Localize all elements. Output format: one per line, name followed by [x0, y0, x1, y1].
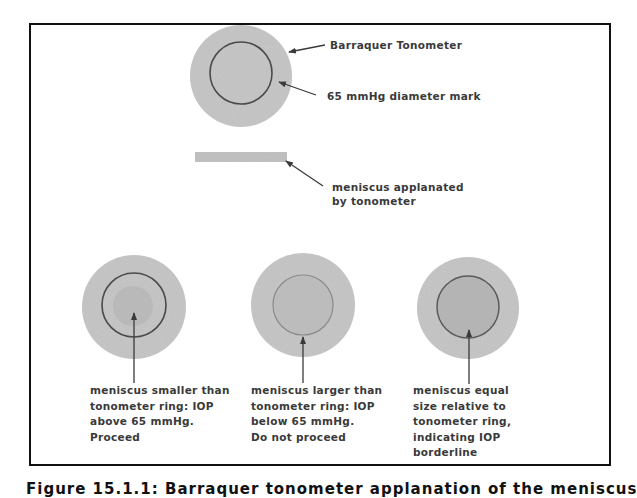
caption-line: meniscus equal [413, 383, 511, 399]
case-equal-diagram [417, 257, 519, 384]
tonometer-reference [190, 25, 325, 127]
meniscus-spot [113, 286, 153, 326]
case-larger-caption: meniscus larger than tonometer ring: IOP… [251, 383, 382, 445]
caption-line: above 65 mmHg. [90, 414, 230, 430]
caption-line: Proceed [90, 430, 230, 446]
diameter-mark-label: 65 mmHg diameter mark [327, 89, 481, 104]
caption-line: indicating IOP [413, 430, 511, 446]
tonometer-label: Barraquer Tonometer [330, 38, 462, 53]
caption-line: meniscus larger than [251, 383, 382, 399]
case-equal-caption: meniscus equal size relative to tonomete… [413, 383, 511, 461]
tonometer-arrow-icon [289, 45, 325, 52]
caption-line: size relative to [413, 399, 511, 415]
caption-line: Do not proceed [251, 430, 382, 446]
caption-line: tonometer ring, [413, 414, 511, 430]
case-smaller-caption: meniscus smaller than tonometer ring: IO… [90, 383, 230, 445]
caption-line: tonometer ring: IOP [90, 399, 230, 415]
applanation-label: meniscus applanated by tonometer [332, 180, 464, 208]
applanation-label-line: meniscus applanated [332, 180, 464, 194]
applanation-label-line: by tonometer [332, 194, 464, 208]
case-larger-diagram [251, 253, 355, 383]
caption-line: tonometer ring: IOP [251, 399, 382, 415]
tonometer-disc [190, 25, 292, 127]
case-smaller-diagram [82, 255, 186, 383]
applanation-illustration [195, 152, 323, 186]
caption-line: below 65 mmHg. [251, 414, 382, 430]
caption-line: meniscus smaller than [90, 383, 230, 399]
caption-line: borderline [413, 445, 511, 461]
applanation-arrow-icon [286, 161, 323, 186]
figure-caption: Figure 15.1.1: Barraquer tonometer appla… [26, 480, 637, 498]
applanated-meniscus-bar [195, 152, 287, 162]
